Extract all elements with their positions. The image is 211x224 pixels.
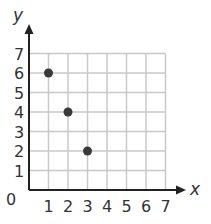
x-tick-label: 6 <box>141 197 151 216</box>
x-tick-label: 2 <box>63 197 73 216</box>
x-axis-label: x <box>189 179 201 199</box>
data-point <box>64 108 73 117</box>
data-point <box>44 69 53 78</box>
x-tick-label: 5 <box>121 197 131 216</box>
x-tick-label: 3 <box>82 197 92 216</box>
y-tick-label: 4 <box>14 103 24 122</box>
y-tick-label: 5 <box>14 84 24 103</box>
y-tick-label: 6 <box>14 64 24 83</box>
y-tick-label: 3 <box>14 123 24 142</box>
x-tick-label: 4 <box>102 197 112 216</box>
y-axis-label: y <box>12 5 24 25</box>
scatter-plot: x y 0 1234567 1234567 <box>0 0 211 224</box>
x-tick-labels: 1234567 <box>43 197 170 216</box>
y-tick-label: 7 <box>14 45 24 64</box>
x-axis-arrow-icon <box>176 186 186 195</box>
y-tick-label: 2 <box>14 142 24 161</box>
x-tick-label: 7 <box>160 197 170 216</box>
origin-label: 0 <box>6 190 16 209</box>
y-axis-arrow-icon <box>25 24 34 34</box>
data-point <box>83 147 92 156</box>
y-tick-labels: 1234567 <box>14 45 24 181</box>
x-tick-label: 1 <box>43 197 53 216</box>
y-tick-label: 1 <box>14 162 24 181</box>
